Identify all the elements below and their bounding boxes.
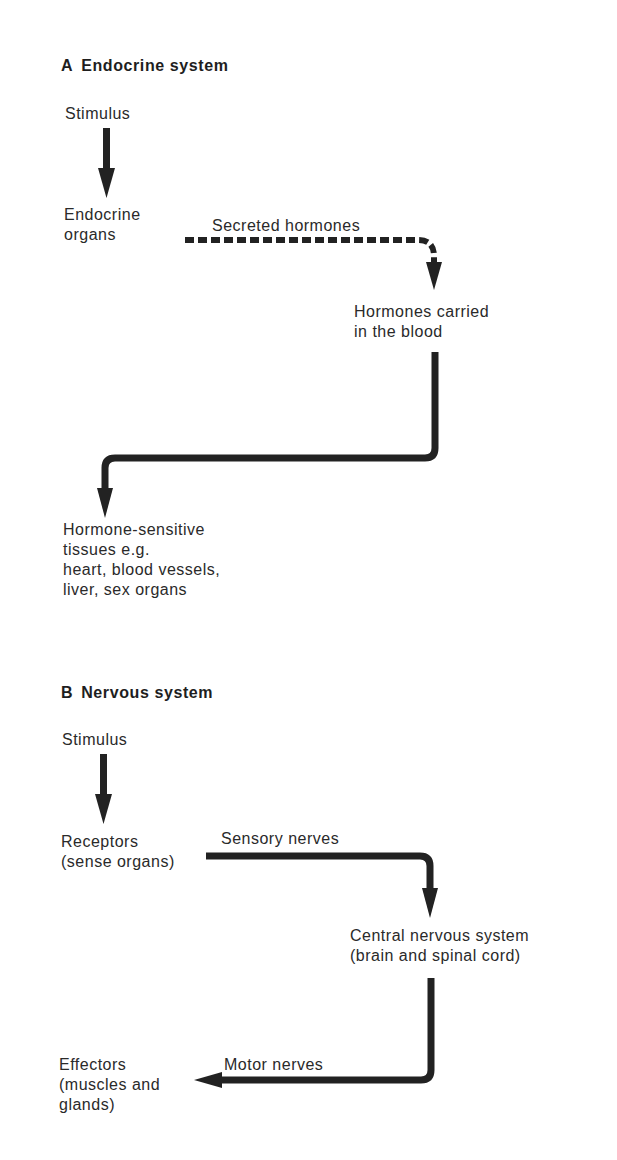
arrow-stimulus-to-organs-icon — [98, 128, 115, 198]
secreted-hormones-label: Secreted hormones — [212, 216, 360, 236]
arrow-sensory-nerves-icon — [206, 856, 438, 918]
cns-label: Central nervous system (brain and spinal… — [350, 926, 529, 966]
effectors-label: Effectors (muscles and glands) — [59, 1055, 160, 1115]
section-b-title: Nervous system — [81, 684, 213, 701]
motor-nerves-label: Motor nerves — [224, 1055, 323, 1075]
arrow-stimulus-to-receptors-icon — [95, 754, 112, 824]
hormone-sensitive-tissues-label: Hormone-sensitive tissues e.g. heart, bl… — [63, 520, 220, 600]
arrow-blood-to-tissues-icon — [97, 352, 435, 518]
hormones-carried-label: Hormones carried in the blood — [354, 302, 489, 342]
receptors-label: Receptors (sense organs) — [61, 832, 175, 872]
stimulus-a-label: Stimulus — [65, 104, 130, 124]
section-a-letter: A — [61, 57, 73, 74]
arrow-secreted-hormones-icon — [185, 240, 442, 290]
section-a-title: Endocrine system — [81, 57, 228, 74]
section-a-heading: AEndocrine system — [61, 57, 229, 75]
section-b-heading: BNervous system — [61, 684, 213, 702]
stimulus-b-label: Stimulus — [62, 730, 127, 750]
endocrine-organs-label: Endocrine organs — [64, 205, 141, 245]
section-b-letter: B — [61, 684, 73, 701]
sensory-nerves-label: Sensory nerves — [221, 829, 339, 849]
